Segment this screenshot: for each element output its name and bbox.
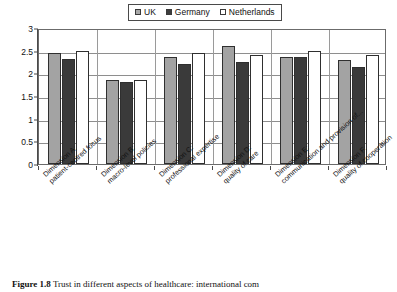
bar-uk-2 [106,80,119,164]
y-tick-label: 2.5 [21,47,33,57]
y-tick-label: 1 [28,115,33,125]
x-tick-mark [386,166,387,170]
bar-uk-4 [222,46,235,164]
legend-label-netherlands: Netherlands [229,7,275,17]
x-tick-mark [154,166,155,170]
legend-swatch-germany-icon [166,9,172,15]
figure-caption: Figure 1.8 Trust in different aspects of… [12,279,387,290]
legend-item-netherlands: Netherlands [220,7,275,17]
legend-label-germany: Germany [175,7,210,17]
bar-uk-1 [48,53,61,164]
chart-legend: UK Germany Netherlands [128,4,282,21]
legend-item-germany: Germany [166,7,210,17]
x-tick-mark [38,166,39,170]
y-tick-label: 2 [28,69,33,79]
legend-swatch-uk-icon [135,9,141,15]
legend-item-uk: UK [135,7,156,17]
legend-swatch-netherlands-icon [220,9,226,15]
x-tick-mark [328,166,329,170]
legend-label-uk: UK [144,7,156,17]
x-tick-mark [212,166,213,170]
bar-group [213,30,271,164]
x-tick-mark [96,166,97,170]
figure-container: UK Germany Netherlands 00.511.522.53 Dim… [0,0,397,292]
x-axis-labels: Dimension A:patient-centred focusDimensi… [0,166,397,266]
y-tick-label: 1.5 [21,92,33,102]
y-tick-label: 0.5 [21,137,33,147]
figure-number: Figure 1.8 [12,279,51,289]
bar-uk-3 [164,57,177,164]
category-separator [271,30,272,164]
figure-caption-text: Trust in different aspects of healthcare… [53,279,259,289]
bar-uk-5 [280,57,293,164]
y-axis: 00.511.522.53 [0,29,38,165]
y-tick-label: 3 [28,24,33,34]
x-tick-mark [270,166,271,170]
